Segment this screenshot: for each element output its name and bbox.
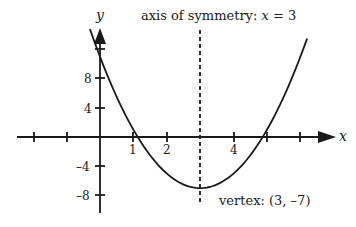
parabola-curve [90, 29, 307, 188]
y-tick-label-neg4: –4 [76, 160, 90, 174]
y-tick-label-neg8: –8 [76, 189, 90, 203]
axis-sym-suffix: = 3 [269, 8, 296, 23]
x-tick-label-2: 2 [163, 143, 171, 157]
y-axis-label: y [95, 7, 105, 23]
parabola-chart: y x 1 2 4 8 4 –4 –8 axis of symmetry: x … [0, 0, 356, 227]
y-tick-label-8: 8 [84, 72, 92, 86]
x-axis-arrow-icon [318, 131, 336, 143]
y-axis-arrow-icon [94, 28, 106, 44]
x-tick-label-1: 1 [129, 143, 137, 157]
x-axis [17, 132, 325, 142]
vertex-label: vertex: (3, –7) [218, 193, 310, 208]
y-tick-label-4: 4 [84, 102, 92, 116]
axis-of-symmetry-label: axis of symmetry: x = 3 [141, 8, 296, 23]
x-axis-label: x [339, 128, 347, 144]
x-tick-label-4: 4 [230, 143, 238, 157]
axis-sym-prefix: axis of symmetry: [141, 8, 261, 23]
